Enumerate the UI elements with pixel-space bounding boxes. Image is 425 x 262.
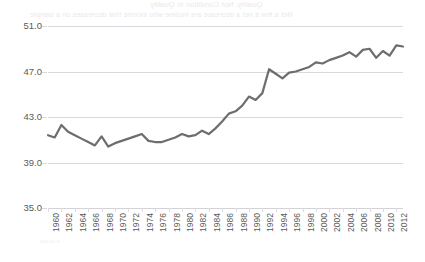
x-tick-mark: [236, 208, 237, 212]
bleed-through-subtitle: Net a few a net a decrease are income wh…: [30, 11, 292, 18]
x-tick-label: 2010: [387, 213, 396, 232]
y-tick-mark: [42, 117, 47, 118]
x-tick-label: 1992: [266, 213, 275, 232]
x-tick-label: 2012: [400, 213, 409, 232]
plot-area: [48, 26, 403, 208]
x-tick-mark: [128, 208, 129, 212]
x-tick-mark: [289, 208, 290, 212]
x-tick-label: 1964: [79, 213, 88, 232]
x-tick-mark: [48, 208, 49, 212]
x-tick-label: 1988: [240, 213, 249, 232]
x-tick-label: 1990: [253, 213, 262, 232]
x-tick-mark: [88, 208, 89, 212]
line-chart: Quality, Not Condition in Quality Net a …: [0, 0, 425, 262]
x-tick-mark: [303, 208, 304, 212]
series-line: [48, 26, 403, 208]
y-tick-mark: [42, 208, 47, 209]
x-tick-label: 1994: [280, 213, 289, 232]
x-tick-mark: [383, 208, 384, 212]
x-tick-label: 1980: [186, 213, 195, 232]
x-tick-label: 1974: [146, 213, 155, 232]
x-tick-mark: [115, 208, 116, 212]
x-tick-mark: [209, 208, 210, 212]
x-tick-mark: [329, 208, 330, 212]
x-tick-mark: [182, 208, 183, 212]
x-tick-label: 1960: [52, 213, 61, 232]
y-tick-label: 39.0: [0, 158, 42, 168]
x-tick-mark: [343, 208, 344, 212]
x-tick-label: 1962: [65, 213, 74, 232]
x-tick-mark: [169, 208, 170, 212]
x-tick-mark: [370, 208, 371, 212]
x-tick-mark: [75, 208, 76, 212]
y-tick-label: 43.0: [0, 112, 42, 122]
y-tick-mark: [42, 72, 47, 73]
x-tick-label: 1968: [106, 213, 115, 232]
x-tick-mark: [102, 208, 103, 212]
bleed-through-title: Quality, Not Condition in Quality: [150, 0, 262, 9]
x-tick-label: 1996: [293, 213, 302, 232]
x-tick-mark: [195, 208, 196, 212]
x-tick-mark: [276, 208, 277, 212]
x-tick-label: 1998: [307, 213, 316, 232]
x-tick-label: 1984: [213, 213, 222, 232]
x-tick-label: 2006: [360, 213, 369, 232]
x-tick-label: 1986: [226, 213, 235, 232]
x-tick-label: 2004: [347, 213, 356, 232]
y-tick-label: 51.0: [0, 21, 42, 31]
y-tick-label: 47.0: [0, 67, 42, 77]
x-tick-label: 1978: [173, 213, 182, 232]
x-tick-label: 2000: [320, 213, 329, 232]
series-path: [48, 45, 403, 146]
x-tick-label: 2002: [333, 213, 342, 232]
x-tick-mark: [142, 208, 143, 212]
x-tick-mark: [222, 208, 223, 212]
x-tick-label: 1976: [159, 213, 168, 232]
x-tick-mark: [396, 208, 397, 212]
bleed-through-footer: a noted: [40, 238, 60, 244]
x-tick-mark: [262, 208, 263, 212]
x-tick-label: 1982: [199, 213, 208, 232]
y-tick-mark: [42, 163, 47, 164]
x-tick-label: 1972: [132, 213, 141, 232]
x-tick-mark: [249, 208, 250, 212]
x-tick-label: 2008: [374, 213, 383, 232]
x-tick-mark: [356, 208, 357, 212]
x-tick-mark: [155, 208, 156, 212]
x-tick-mark: [61, 208, 62, 212]
x-tick-label: 1966: [92, 213, 101, 232]
x-tick-mark: [316, 208, 317, 212]
y-tick-mark: [42, 26, 47, 27]
y-tick-label: 35.0: [0, 203, 42, 213]
x-tick-label: 1970: [119, 213, 128, 232]
